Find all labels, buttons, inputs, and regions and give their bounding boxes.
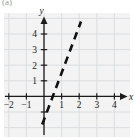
y-tick-label-4: 4	[32, 29, 37, 39]
y-tick-label-3: 3	[32, 45, 37, 55]
coordinate-plane-graph: −2 −1 1 2 3 4 4 3 2 1 y x	[0, 0, 134, 140]
x-tick-label-2: 2	[77, 100, 82, 110]
plot-background	[4, 13, 130, 137]
x-tick-label-3: 3	[94, 100, 99, 110]
x-tick-label-neg1: −1	[21, 100, 31, 110]
x-tick-label-4: 4	[112, 100, 117, 110]
y-tick-label-1: 1	[32, 76, 37, 86]
y-axis-label: y	[38, 6, 44, 16]
x-tick-label-neg2: −2	[4, 100, 14, 110]
x-axis-label: x	[128, 92, 134, 102]
x-tick-label-1: 1	[59, 100, 64, 110]
figure-panel: (a)	[0, 0, 134, 140]
y-tick-label-2: 2	[32, 61, 37, 71]
